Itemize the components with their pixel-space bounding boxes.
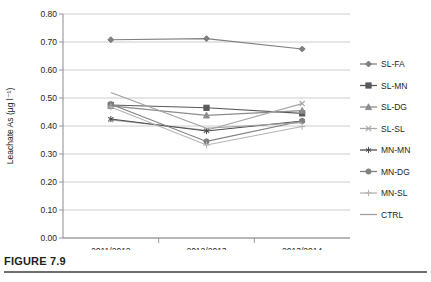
legend-label: SL-FA (381, 59, 405, 69)
y-tick-label: 0.30 (40, 149, 57, 159)
y-tick-label: 0.20 (40, 177, 57, 187)
x-tick-label: 2012/2013 (186, 246, 226, 250)
data-point-circle (366, 169, 371, 174)
y-tick-label: 0.70 (40, 37, 57, 47)
figure-caption-label: FIGURE 7.9 (0, 252, 431, 271)
y-tick-label: 0.00 (40, 233, 57, 243)
y-tick-label: 0.80 (40, 9, 57, 19)
chart-canvas: 0.000.100.200.300.400.500.600.700.80 201… (0, 0, 431, 250)
legend-label: MN-MN (381, 145, 410, 155)
gridlines (59, 14, 350, 238)
legend-item-ctrl[interactable]: CTRL (360, 210, 403, 220)
legend-item-mn-mn[interactable]: MN-MN (360, 145, 410, 155)
figure-container: 0.000.100.200.300.400.500.600.700.80 201… (0, 0, 431, 282)
data-point-diamond (204, 36, 210, 42)
y-tick-label: 0.50 (40, 93, 57, 103)
x-tick-label: 2013/2014 (282, 246, 322, 250)
legend-label: SL-DG (381, 102, 407, 112)
x-tick-label: 2011/2012 (91, 246, 131, 250)
legend-label: SL-SL (381, 124, 405, 134)
y-tick-label: 0.60 (40, 65, 57, 75)
legend-label: CTRL (381, 210, 403, 220)
y-axis-title: Leachate As (µg l⁻¹) (5, 88, 15, 165)
y-tick-label: 0.10 (40, 205, 57, 215)
line-chart: 0.000.100.200.300.400.500.600.700.80 201… (0, 0, 431, 250)
y-axis-title-text: Leachate As (µg l⁻¹) (5, 88, 15, 165)
data-point-diamond (299, 46, 305, 52)
legend-item-mn-dg[interactable]: MN-DG (360, 167, 410, 177)
chart-legend[interactable]: SL-FASL-MNSL-DGSL-SLMN-MNMN-DGMN-SLCTRL (360, 59, 410, 220)
y-axis-ticks: 0.000.100.200.300.400.500.600.700.80 (40, 9, 57, 243)
legend-item-sl-dg[interactable]: SL-DG (360, 102, 407, 112)
data-point-square (204, 105, 209, 110)
legend-item-mn-sl[interactable]: MN-SL (360, 188, 408, 198)
x-axis-ticks: 2011/20122012/20132013/2014 (91, 238, 322, 250)
series-sl-fa (108, 36, 305, 52)
legend-item-sl-fa[interactable]: SL-FA (360, 59, 405, 69)
data-point-square (366, 83, 371, 88)
y-tick-label: 0.40 (40, 121, 57, 131)
figure-caption-block: FIGURE 7.9 (0, 252, 431, 273)
legend-label: MN-DG (381, 167, 410, 177)
data-series (108, 36, 306, 149)
caption-divider (4, 271, 427, 273)
data-point-diamond (366, 61, 372, 67)
legend-item-sl-sl[interactable]: SL-SL (360, 124, 405, 134)
legend-label: MN-SL (381, 188, 408, 198)
legend-item-sl-mn[interactable]: SL-MN (360, 81, 407, 91)
legend-label: SL-MN (381, 81, 407, 91)
